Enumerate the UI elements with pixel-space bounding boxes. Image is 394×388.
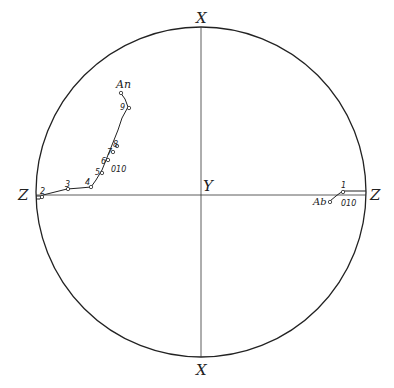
label-4: 4 xyxy=(85,178,90,187)
point-1 xyxy=(341,190,344,193)
label-6: 6 xyxy=(101,157,106,166)
left-z-label: Z xyxy=(17,186,29,204)
path-ab: 1 Ab 010 xyxy=(312,181,366,208)
label-ab: Ab xyxy=(312,196,327,207)
label-3: 3 xyxy=(65,180,70,189)
point-ab xyxy=(328,200,331,203)
stereogram: X X Z Z Y 2 3 4 5 6 7 8 9 An 010 1 Ab 01… xyxy=(0,0,394,388)
label-010-right: 010 xyxy=(341,199,356,208)
right-z-label: Z xyxy=(369,186,381,204)
label-010-left: 010 xyxy=(111,165,126,174)
label-1: 1 xyxy=(341,181,346,190)
point-6 xyxy=(106,158,109,161)
point-an xyxy=(119,91,122,94)
label-2: 2 xyxy=(40,187,45,196)
label-9: 9 xyxy=(120,103,125,112)
bottom-x-label: X xyxy=(195,361,208,379)
label-an: An xyxy=(115,78,131,91)
center-y-label: Y xyxy=(203,177,215,195)
top-x-label: X xyxy=(195,9,208,27)
label-8: 8 xyxy=(113,140,118,149)
path-an: 2 3 4 5 6 7 8 9 An 010 xyxy=(36,78,131,199)
point-5 xyxy=(100,171,103,174)
label-5: 5 xyxy=(95,168,100,177)
point-9 xyxy=(127,106,130,109)
